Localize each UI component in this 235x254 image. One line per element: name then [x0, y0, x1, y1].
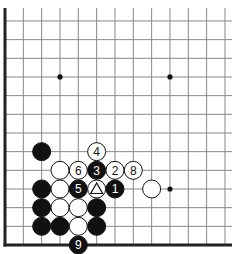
white-stone [51, 161, 69, 179]
move-number: 5 [75, 182, 82, 196]
black-stone-5: 5 [69, 180, 87, 198]
star-point [57, 74, 62, 79]
black-stone-disc [33, 217, 51, 235]
white-stone-disc [143, 180, 161, 198]
black-stone [33, 143, 51, 161]
white-stone [69, 217, 87, 235]
move-number: 8 [130, 164, 137, 178]
black-stone-disc [33, 180, 51, 198]
black-stone-disc [88, 217, 106, 235]
go-board: 46328519 [0, 0, 235, 254]
black-stone-1: 1 [106, 180, 124, 198]
move-number: 3 [93, 164, 100, 178]
black-stone [33, 180, 51, 198]
black-stone [88, 217, 106, 235]
white-stone-disc [69, 199, 87, 217]
star-point [167, 186, 172, 191]
move-number: 9 [75, 238, 82, 252]
white-stone-disc [51, 161, 69, 179]
black-stone-disc [51, 217, 69, 235]
white-stone-4: 4 [88, 143, 106, 161]
black-stone [33, 217, 51, 235]
move-number: 6 [75, 164, 82, 178]
white-stone-disc [51, 199, 69, 217]
black-stone [51, 217, 69, 235]
move-number: 1 [112, 182, 119, 196]
black-stone-3: 3 [88, 161, 106, 179]
white-stone [51, 180, 69, 198]
white-stone [51, 199, 69, 217]
black-stone-disc [33, 143, 51, 161]
white-stone-disc [51, 180, 69, 198]
black-stone-9: 9 [69, 236, 87, 254]
white-stone-6: 6 [69, 161, 87, 179]
star-point [167, 74, 172, 79]
white-stone [143, 180, 161, 198]
white-stone-2: 2 [106, 161, 124, 179]
black-stone [33, 199, 51, 217]
black-stone [88, 199, 106, 217]
white-stone [88, 180, 106, 198]
black-stone-disc [33, 199, 51, 217]
white-stone [69, 199, 87, 217]
white-stone-disc [69, 217, 87, 235]
move-number: 4 [93, 145, 100, 159]
move-number: 2 [112, 164, 119, 178]
black-stone-disc [88, 199, 106, 217]
white-stone-8: 8 [124, 161, 142, 179]
